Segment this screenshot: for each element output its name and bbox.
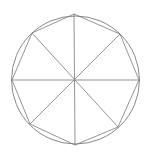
circle-octagon-diagram <box>0 0 148 159</box>
